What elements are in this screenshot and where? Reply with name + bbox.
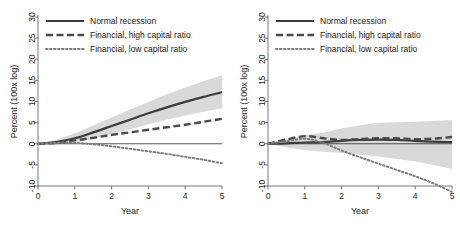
y-tick-label: 20 [257, 54, 267, 64]
left-panel: -10-5051015202530012345YearPercent (100x… [0, 0, 230, 228]
confidence-band-normal-recession [268, 120, 452, 169]
y-tick-label: 15 [257, 75, 267, 85]
y-tick-label: 5 [27, 120, 37, 125]
axes: -10-5051015202530012345YearPercent (100x… [239, 12, 455, 216]
axes: -10-5051015202530012345YearPercent (100x… [9, 12, 225, 216]
x-tick-label: 1 [302, 191, 307, 201]
legend-label: Financial, low capital ratio [90, 44, 188, 54]
legend-label: Financial, high capital ratio [320, 30, 421, 40]
y-tick-label: 10 [257, 97, 267, 107]
x-tick-label: 5 [220, 191, 225, 201]
y-tick-label: 5 [257, 120, 267, 125]
y-tick-label: 25 [27, 33, 37, 43]
right-panel: -10-5051015202530012345YearPercent (100x… [230, 0, 460, 228]
x-tick-label: 0 [36, 191, 41, 201]
y-axis-title: Percent (100x log) [239, 65, 249, 139]
legend-label: Normal recession [90, 16, 156, 26]
plot-area-left: -10-5051015202530012345YearPercent (100x… [0, 0, 230, 228]
x-tick-label: 3 [376, 191, 381, 201]
confidence-bands [268, 120, 452, 169]
x-axis-title: Year [121, 206, 139, 216]
y-tick-label: 30 [257, 12, 267, 22]
y-tick-label: -5 [257, 161, 267, 169]
y-tick-label: 15 [27, 75, 37, 85]
y-tick-label: -5 [27, 161, 37, 169]
x-tick-label: 2 [339, 191, 344, 201]
x-tick-label: 2 [109, 191, 114, 201]
x-axis-title: Year [351, 206, 369, 216]
y-tick-label: 30 [27, 12, 37, 22]
figure-container: -10-5051015202530012345YearPercent (100x… [0, 0, 460, 228]
x-tick-label: 4 [413, 191, 418, 201]
plot-area-right: -10-5051015202530012345YearPercent (100x… [230, 0, 460, 228]
y-tick-label: 10 [27, 97, 37, 107]
y-tick-label: 0 [257, 141, 267, 146]
legend: Normal recessionFinancial, high capital … [276, 16, 421, 54]
y-tick-label: 20 [27, 54, 37, 64]
y-tick-label: 0 [27, 141, 37, 146]
legend-label: Financial, low capital ratio [320, 44, 418, 54]
x-tick-label: 1 [72, 191, 77, 201]
x-tick-label: 0 [266, 191, 271, 201]
legend: Normal recessionFinancial, high capital … [46, 16, 191, 54]
y-axis-title: Percent (100x log) [9, 65, 19, 139]
x-tick-label: 4 [183, 191, 188, 201]
series-line-financial-low-capital-ratio [38, 143, 222, 163]
confidence-band-normal-recession [38, 75, 222, 144]
y-tick-label: 25 [257, 33, 267, 43]
legend-label: Normal recession [320, 16, 386, 26]
x-tick-label: 3 [146, 191, 151, 201]
legend-label: Financial, high capital ratio [90, 30, 191, 40]
confidence-bands [38, 75, 222, 144]
